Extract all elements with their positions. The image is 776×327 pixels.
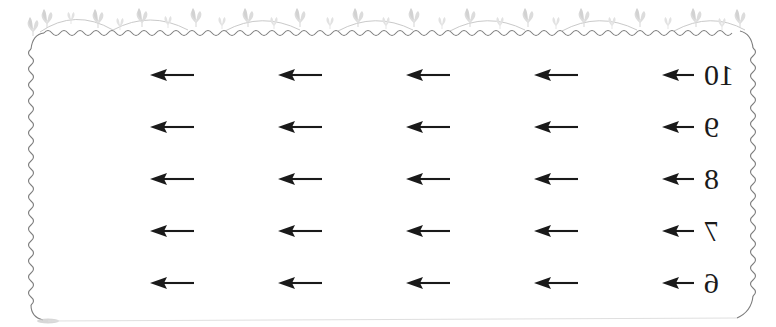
- arrow-cell[interactable]: [148, 58, 194, 92]
- left-arrow-icon: [532, 274, 578, 292]
- arrow-cell[interactable]: [148, 266, 194, 300]
- arrow-cell[interactable]: [148, 162, 194, 196]
- left-arrow-icon: [404, 118, 450, 136]
- row-number-label: 10: [704, 60, 734, 90]
- arrow-cell[interactable]: [276, 110, 322, 144]
- left-arrow-icon: [404, 222, 450, 240]
- arrow-cell-with-number[interactable]: 6: [660, 266, 719, 300]
- arrow-cell[interactable]: [276, 266, 322, 300]
- arrow-cell-with-number[interactable]: 8: [660, 162, 719, 196]
- left-arrow-icon: [532, 170, 578, 188]
- row-number-label: 7: [704, 216, 719, 246]
- left-arrow-icon: [148, 170, 194, 188]
- arrow-cell[interactable]: [276, 214, 322, 248]
- left-arrow-icon: [148, 66, 194, 84]
- table-row: 6: [0, 266, 776, 300]
- arrow-cell[interactable]: [532, 110, 578, 144]
- left-arrow-icon: [276, 274, 322, 292]
- arrow-cell[interactable]: [404, 266, 450, 300]
- left-arrow-icon: [404, 274, 450, 292]
- arrow-cell[interactable]: [532, 58, 578, 92]
- table-row: 8: [0, 162, 776, 196]
- arrow-cell[interactable]: [404, 214, 450, 248]
- left-arrow-icon: [148, 118, 194, 136]
- arrow-cell[interactable]: [532, 266, 578, 300]
- left-arrow-icon: [532, 222, 578, 240]
- table-row: 10: [0, 58, 776, 92]
- left-arrow-icon: [660, 66, 694, 84]
- worksheet-page: 10: [0, 0, 776, 327]
- arrow-cell[interactable]: [148, 214, 194, 248]
- arrow-grid: 10: [0, 0, 776, 327]
- arrow-cell-with-number[interactable]: 10: [660, 58, 734, 92]
- left-arrow-icon: [276, 66, 322, 84]
- left-arrow-icon: [660, 274, 694, 292]
- left-arrow-icon: [532, 118, 578, 136]
- arrow-cell[interactable]: [404, 162, 450, 196]
- arrow-cell[interactable]: [148, 110, 194, 144]
- row-number-label: 8: [704, 164, 719, 194]
- arrow-cell[interactable]: [532, 214, 578, 248]
- left-arrow-icon: [148, 274, 194, 292]
- table-row: 9: [0, 110, 776, 144]
- arrow-cell[interactable]: [276, 58, 322, 92]
- left-arrow-icon: [660, 222, 694, 240]
- table-row: 7: [0, 214, 776, 248]
- left-arrow-icon: [532, 66, 578, 84]
- arrow-cell[interactable]: [532, 162, 578, 196]
- arrow-cell[interactable]: [404, 110, 450, 144]
- left-arrow-icon: [276, 222, 322, 240]
- row-number-label: 6: [704, 268, 719, 298]
- left-arrow-icon: [404, 66, 450, 84]
- left-arrow-icon: [276, 118, 322, 136]
- arrow-cell-with-number[interactable]: 9: [660, 110, 719, 144]
- left-arrow-icon: [148, 222, 194, 240]
- arrow-cell[interactable]: [404, 58, 450, 92]
- arrow-cell[interactable]: [276, 162, 322, 196]
- row-number-label: 9: [704, 112, 719, 142]
- left-arrow-icon: [660, 170, 694, 188]
- left-arrow-icon: [404, 170, 450, 188]
- arrow-cell-with-number[interactable]: 7: [660, 214, 719, 248]
- left-arrow-icon: [660, 118, 694, 136]
- left-arrow-icon: [276, 170, 322, 188]
